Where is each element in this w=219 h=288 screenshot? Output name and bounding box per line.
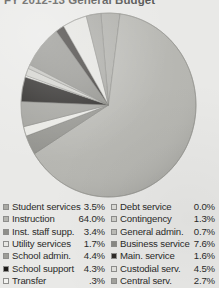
legend-column-right: Debt service0.0%Contingency1.3%General a… [111, 201, 217, 288]
legend-swatch-icon [3, 216, 9, 222]
legend-value: 64.0% [79, 213, 105, 225]
legend-value: 4.5% [194, 263, 215, 275]
legend-item: Transfer.3% [3, 275, 108, 287]
legend-swatch-icon [111, 216, 117, 222]
legend-value: 3.5% [84, 201, 105, 213]
legend-item: Student services3.5% [3, 201, 108, 213]
pie-chart-figure: FY 2012-13 General Budget Student servic… [0, 0, 219, 288]
legend-item: Custodial serv.4.5% [111, 263, 217, 275]
legend-value: 1.6% [194, 250, 215, 262]
legend-label: Utility services [12, 238, 71, 250]
legend-item: Main. service1.6% [111, 250, 217, 262]
legend-value: 7.6% [194, 238, 215, 250]
legend-item: Inst. staff supp.3.4% [3, 226, 108, 238]
legend-item: School support4.3% [3, 263, 108, 275]
legend-swatch-icon [3, 241, 9, 247]
legend-label: Instruction [12, 213, 55, 225]
pie-outline [21, 13, 196, 197]
legend-label: School admin. [12, 250, 71, 262]
legend-label: School support [12, 263, 74, 275]
legend-item: Central serv.2.7% [111, 275, 217, 287]
legend-swatch-icon [111, 266, 117, 272]
legend-value: .3% [89, 275, 105, 287]
legend-swatch-icon [111, 253, 117, 259]
legend-item: Instruction64.0% [3, 213, 108, 225]
chart-legend: Student services3.5%Instruction64.0%Inst… [0, 201, 219, 288]
legend-value: 3.4% [84, 226, 105, 238]
legend-swatch-icon [111, 241, 117, 247]
legend-item: Debt service0.0% [111, 201, 217, 213]
legend-item: General admin.0.7% [111, 226, 217, 238]
legend-swatch-icon [3, 229, 9, 235]
legend-value: 2.7% [194, 275, 215, 287]
legend-label: General admin. [120, 226, 184, 238]
legend-label: Business service [120, 238, 190, 250]
legend-column-left: Student services3.5%Instruction64.0%Inst… [3, 201, 108, 288]
legend-value: 4.4% [84, 250, 105, 262]
legend-value: 0.7% [194, 226, 215, 238]
legend-label: Student services [12, 201, 81, 213]
legend-swatch-icon [3, 204, 9, 210]
legend-label: Central serv. [120, 275, 172, 287]
legend-swatch-icon [3, 278, 9, 284]
legend-item: Utility services1.7% [3, 238, 108, 250]
legend-label: Contingency [120, 213, 172, 225]
legend-label: Main. service [120, 250, 175, 262]
pie-plot-area [0, 4, 219, 200]
legend-label: Inst. staff supp. [12, 226, 74, 238]
legend-item: School admin.4.4% [3, 250, 108, 262]
legend-label: Custodial serv. [120, 263, 181, 275]
legend-value: 1.7% [84, 238, 105, 250]
legend-value: 1.3% [194, 213, 215, 225]
legend-swatch-icon [3, 266, 9, 272]
legend-item: Business service7.6% [111, 238, 217, 250]
legend-swatch-icon [111, 204, 117, 210]
legend-swatch-icon [3, 253, 9, 259]
legend-value: 0.0% [194, 201, 215, 213]
legend-label: Transfer [12, 275, 46, 287]
legend-label: Debt service [120, 201, 172, 213]
legend-item: Contingency1.3% [111, 213, 217, 225]
legend-swatch-icon [111, 278, 117, 284]
pie-svg [0, 4, 219, 200]
legend-value: 4.3% [84, 263, 105, 275]
legend-swatch-icon [111, 229, 117, 235]
